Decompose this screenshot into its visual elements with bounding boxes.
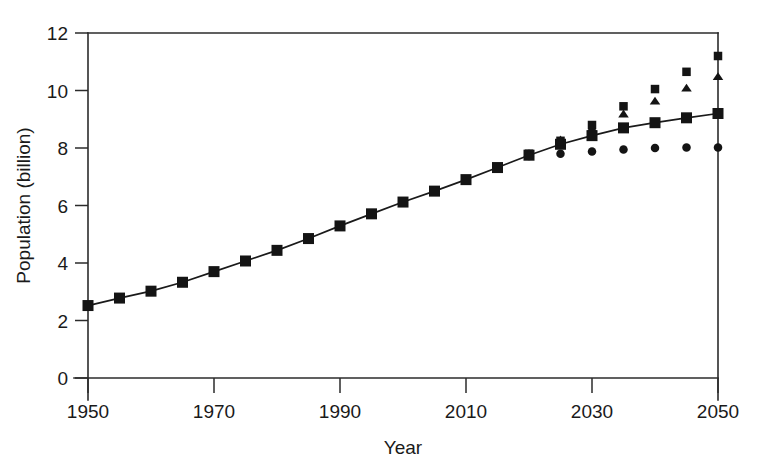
- data-point-square: [492, 162, 503, 173]
- axes-group: [74, 33, 718, 400]
- y-tick-label: 4: [57, 253, 68, 274]
- data-point-square: [587, 130, 598, 141]
- data-point-square: [651, 85, 660, 94]
- y-tick-group: 024681012: [47, 23, 88, 389]
- x-tick-label: 2030: [571, 401, 613, 422]
- data-point-square: [619, 102, 628, 111]
- data-point-square: [429, 186, 440, 197]
- x-tick-label: 2050: [697, 401, 739, 422]
- data-point-square: [146, 286, 157, 297]
- data-point-square: [618, 122, 629, 133]
- y-tick-label: 10: [47, 81, 68, 102]
- data-point-square: [303, 233, 314, 244]
- series-line-medium: [88, 114, 718, 306]
- y-tick-label: 2: [57, 311, 68, 332]
- data-point-square: [681, 112, 692, 123]
- data-point-square: [240, 255, 251, 266]
- x-tick-label: 2010: [445, 401, 487, 422]
- series-lines-group: [88, 114, 718, 306]
- data-point-circle: [525, 152, 534, 161]
- data-point-triangle: [618, 110, 629, 118]
- data-point-square: [366, 208, 377, 219]
- series-markers-group: [83, 52, 724, 311]
- data-point-circle: [651, 144, 660, 153]
- data-point-triangle: [650, 97, 661, 105]
- data-point-square: [650, 117, 661, 128]
- y-tick-label: 8: [57, 138, 68, 159]
- x-tick-group: 195019701990201020302050: [67, 378, 739, 422]
- data-point-square: [398, 197, 409, 208]
- data-point-square: [682, 68, 691, 77]
- data-point-square: [114, 293, 125, 304]
- x-tick-label: 1990: [319, 401, 361, 422]
- data-point-square: [83, 300, 94, 311]
- chart-canvas: 024681012 195019701990201020302050 Popul…: [0, 0, 759, 467]
- x-tick-label: 1950: [67, 401, 109, 422]
- data-point-square: [272, 245, 283, 256]
- data-point-triangle: [713, 72, 724, 80]
- data-point-circle: [619, 145, 628, 154]
- population-projection-chart: 024681012 195019701990201020302050 Popul…: [0, 0, 759, 467]
- data-point-square: [177, 277, 188, 288]
- data-point-square: [335, 220, 346, 231]
- data-point-square: [713, 108, 724, 119]
- y-tick-label: 0: [57, 368, 68, 389]
- y-axis-label: Population (billion): [13, 127, 34, 283]
- data-point-triangle: [681, 84, 692, 92]
- data-point-square: [209, 266, 220, 277]
- x-axis-label: Year: [384, 437, 423, 458]
- y-tick-label: 12: [47, 23, 68, 44]
- data-point-square: [461, 174, 472, 185]
- y-tick-label: 6: [57, 196, 68, 217]
- data-point-circle: [556, 150, 565, 159]
- data-point-square: [714, 52, 723, 61]
- data-point-circle: [682, 143, 691, 152]
- data-point-circle: [588, 147, 597, 156]
- x-tick-label: 1970: [193, 401, 235, 422]
- data-point-circle: [714, 143, 723, 152]
